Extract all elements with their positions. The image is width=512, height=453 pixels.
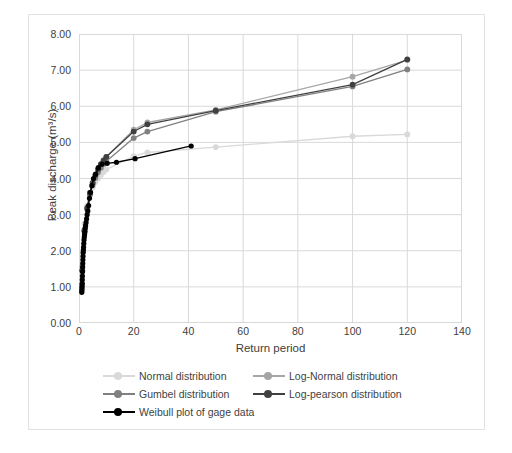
data-point — [144, 129, 150, 135]
x-axis-tick-label: 120 — [399, 325, 417, 337]
legend-marker-icon — [253, 388, 285, 400]
data-point — [213, 108, 219, 114]
series-line — [82, 69, 407, 270]
series-line — [82, 60, 407, 267]
y-axis-title-text: Peak discharge (m³/s) — [46, 109, 58, 221]
data-point — [99, 161, 104, 166]
legend-item[interactable]: Gumbel distribution — [103, 385, 253, 403]
series-2 — [79, 57, 410, 270]
series-3 — [79, 67, 410, 274]
data-point — [131, 135, 137, 141]
y-axis-title: Peak discharge (m³/s) — [46, 50, 58, 280]
series-5 — [79, 143, 194, 295]
x-axis-tick-label: 60 — [237, 325, 249, 337]
data-point — [87, 196, 92, 201]
legend-label: Log-pearson distribution — [289, 388, 402, 400]
x-axis-tick-label: 40 — [183, 325, 195, 337]
legend-label: Weibull plot of gage data — [139, 406, 254, 418]
chart-plot-wrapper: 0.001.002.003.004.005.006.007.008.00 Pea… — [29, 15, 486, 431]
data-point — [144, 121, 150, 127]
data-point — [350, 74, 356, 80]
data-point — [144, 150, 150, 156]
data-point — [189, 143, 194, 148]
legend-label: Normal distribution — [139, 370, 227, 382]
data-point — [89, 183, 94, 188]
series-line — [82, 134, 407, 252]
legend-row: Normal distributionLog-Normal distributi… — [103, 367, 433, 385]
chart-frame: 0.001.002.003.004.005.006.007.008.00 Pea… — [28, 14, 485, 430]
plot-area — [79, 34, 462, 323]
data-point — [213, 144, 219, 150]
legend-row: Gumbel distributionLog-pearson distribut… — [103, 385, 433, 403]
series-4 — [79, 56, 410, 273]
legend-item[interactable]: Weibull plot of gage data — [103, 403, 253, 421]
chart-legend: Normal distributionLog-Normal distributi… — [103, 367, 433, 421]
x-axis-title-text: Return period — [236, 342, 306, 354]
legend-label: Gumbel distribution — [139, 388, 229, 400]
data-point — [85, 208, 90, 213]
data-point — [103, 154, 109, 160]
x-axis-tick-label: 100 — [344, 325, 362, 337]
x-axis-tick-label: 20 — [128, 325, 140, 337]
data-point — [350, 133, 356, 139]
legend-item[interactable]: Log-Normal distribution — [253, 367, 433, 385]
series-1 — [79, 132, 410, 256]
data-point — [131, 129, 137, 135]
x-axis-tick-labels: 020406080100120140 — [79, 325, 462, 341]
data-point — [80, 269, 85, 274]
legend-item[interactable]: Normal distribution — [103, 367, 253, 385]
y-axis-tick-label: 1.00 — [51, 281, 71, 293]
data-point — [350, 82, 356, 88]
series-layer — [79, 56, 410, 295]
data-point — [103, 167, 109, 173]
data-point — [86, 203, 91, 208]
series-line — [82, 59, 407, 270]
data-point — [88, 190, 93, 195]
x-axis-title: Return period — [79, 342, 462, 354]
data-point — [404, 132, 410, 138]
data-point — [404, 67, 410, 73]
figure-root: 0.001.002.003.004.005.006.007.008.00 Pea… — [0, 0, 512, 453]
data-point — [105, 161, 110, 166]
y-axis-tick-label: 0.00 — [51, 317, 71, 329]
data-point — [404, 56, 410, 62]
legend-item[interactable]: Log-pearson distribution — [253, 385, 433, 403]
plot-svg — [79, 34, 462, 323]
data-point — [93, 172, 98, 177]
legend-marker-icon — [103, 406, 135, 418]
legend-marker-icon — [253, 370, 285, 382]
data-point — [114, 160, 119, 165]
gridlines — [79, 34, 462, 323]
x-axis-tick-label: 140 — [453, 325, 471, 337]
data-point — [132, 156, 137, 161]
legend-row: Weibull plot of gage data — [103, 403, 433, 421]
legend-label: Log-Normal distribution — [289, 370, 398, 382]
legend-marker-icon — [103, 370, 135, 382]
x-axis-tick-label: 0 — [76, 325, 82, 337]
y-axis-tick-label: 8.00 — [51, 28, 71, 40]
x-axis-tick-label: 80 — [292, 325, 304, 337]
legend-marker-icon — [103, 388, 135, 400]
